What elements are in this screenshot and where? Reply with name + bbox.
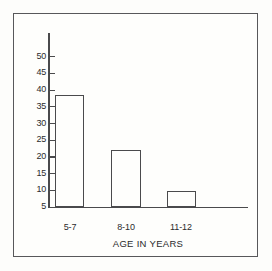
bar-11-12 bbox=[167, 191, 196, 207]
y-tick-mark bbox=[50, 156, 55, 157]
y-tick-label: 35 bbox=[22, 102, 46, 111]
x-tick-label: 5-7 bbox=[45, 222, 95, 232]
plot-area: 5 10 15 20 25 30 35 40 45 50 5-7 8-10 11… bbox=[0, 0, 272, 271]
y-tick-label: 5 bbox=[22, 202, 46, 211]
y-tick-label: 10 bbox=[22, 185, 46, 194]
x-tick-label: 11-12 bbox=[156, 222, 206, 232]
y-tick-mark bbox=[50, 190, 55, 191]
y-tick-label: 30 bbox=[22, 119, 46, 128]
y-tick-label: 20 bbox=[22, 152, 46, 161]
y-tick-label: 45 bbox=[22, 68, 46, 77]
x-axis-title: AGE IN YEARS bbox=[48, 238, 248, 249]
chart-figure: 5 10 15 20 25 30 35 40 45 50 5-7 8-10 11… bbox=[0, 0, 272, 271]
y-tick-label: 40 bbox=[22, 85, 46, 94]
x-tick-label: 8-10 bbox=[101, 222, 151, 232]
y-tick-label: 50 bbox=[22, 52, 46, 61]
y-tick-mark bbox=[50, 123, 55, 124]
y-tick-label: 25 bbox=[22, 135, 46, 144]
y-tick-mark bbox=[50, 73, 55, 74]
y-tick-mark bbox=[50, 56, 55, 57]
y-tick-mark bbox=[50, 90, 55, 91]
y-tick-label: 15 bbox=[22, 169, 46, 178]
y-tick-mark bbox=[50, 106, 55, 107]
y-tick-mark bbox=[50, 140, 55, 141]
y-tick-mark bbox=[50, 207, 55, 208]
y-axis-line bbox=[48, 33, 50, 208]
bar-5-7 bbox=[55, 95, 84, 207]
y-tick-mark bbox=[50, 173, 55, 174]
bar-8-10 bbox=[111, 150, 141, 207]
